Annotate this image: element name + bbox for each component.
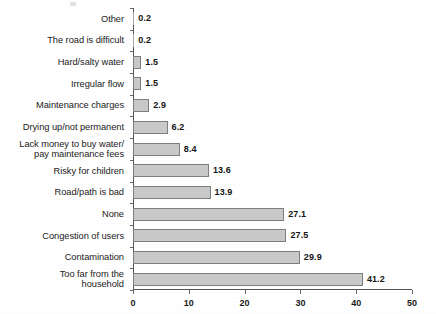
x-axis-tick xyxy=(133,290,134,294)
bar-value-label: 13.6 xyxy=(213,165,231,175)
y-axis-tick xyxy=(130,8,133,9)
category-label: Contamination xyxy=(0,252,129,262)
category-label: Other xyxy=(0,14,129,24)
bar xyxy=(133,273,363,286)
bar-value-label: 13.9 xyxy=(215,187,233,197)
x-axis-tick-label: 50 xyxy=(397,298,427,308)
x-axis-line xyxy=(133,289,412,290)
bar-value-label: 0.2 xyxy=(138,13,151,23)
y-axis-tick xyxy=(130,51,133,52)
category-label: Congestion of users xyxy=(0,231,129,241)
category-axis-labels: OtherThe road is difficultHard/salty wat… xyxy=(0,8,129,290)
bar xyxy=(133,208,284,221)
category-label: Road/path is bad xyxy=(0,187,129,197)
bar xyxy=(133,34,134,47)
y-axis-tick xyxy=(130,95,133,96)
bar xyxy=(133,56,141,69)
category-label: Irregular flow xyxy=(0,79,129,89)
bar xyxy=(133,143,180,156)
x-axis-tick xyxy=(356,290,357,294)
y-axis-tick xyxy=(130,247,133,248)
x-axis-tick xyxy=(412,290,413,294)
bar xyxy=(133,77,141,90)
y-axis-tick xyxy=(130,116,133,117)
x-axis-tick xyxy=(245,290,246,294)
bar-value-label: 6.2 xyxy=(172,122,185,132)
category-label: Drying up/not permanent xyxy=(0,122,129,132)
bar-chart: OtherThe road is difficultHard/salty wat… xyxy=(0,0,436,314)
x-axis-tick-label: 0 xyxy=(118,298,148,308)
y-axis-tick xyxy=(130,203,133,204)
y-axis-tick xyxy=(130,160,133,161)
x-axis-tick-label: 40 xyxy=(341,298,371,308)
category-label: None xyxy=(0,209,129,219)
bar xyxy=(133,251,300,264)
bar-value-label: 0.2 xyxy=(138,35,151,45)
bar xyxy=(133,229,286,242)
x-axis-tick xyxy=(300,290,301,294)
bar-value-label: 29.9 xyxy=(304,252,322,262)
category-label: Maintenance charges xyxy=(0,100,129,110)
bar-value-label: 1.5 xyxy=(145,78,158,88)
category-label: Lack money to buy water/ pay maintenance… xyxy=(0,139,129,160)
bar-value-label: 27.1 xyxy=(288,209,306,219)
bar xyxy=(133,186,211,199)
category-label: Risky for children xyxy=(0,166,129,176)
category-label: The road is difficult xyxy=(0,35,129,45)
bar-value-label: 2.9 xyxy=(153,100,166,110)
y-axis-tick xyxy=(130,290,133,291)
bar-value-label: 1.5 xyxy=(145,57,158,67)
y-axis-tick xyxy=(130,73,133,74)
bar-value-label: 27.5 xyxy=(290,230,308,240)
y-axis-tick xyxy=(130,182,133,183)
bar xyxy=(133,12,134,25)
x-axis-tick xyxy=(189,290,190,294)
bar-value-label: 8.4 xyxy=(184,144,197,154)
y-axis-tick xyxy=(130,225,133,226)
bar xyxy=(133,99,149,112)
x-axis-tick-label: 20 xyxy=(230,298,260,308)
scan-artifact xyxy=(70,2,76,6)
x-axis-tick-label: 30 xyxy=(285,298,315,308)
bar xyxy=(133,121,168,134)
y-axis-tick xyxy=(130,268,133,269)
bar-value-label: 41.2 xyxy=(367,274,385,284)
category-label: Hard/salty water xyxy=(0,57,129,67)
category-label: Too far from the household xyxy=(0,269,129,290)
plot-area: 0.20.21.51.52.96.28.413.613.927.127.529.… xyxy=(133,8,412,290)
y-axis-tick xyxy=(130,30,133,31)
y-axis-tick xyxy=(130,138,133,139)
x-axis-tick-label: 10 xyxy=(174,298,204,308)
bar xyxy=(133,164,209,177)
